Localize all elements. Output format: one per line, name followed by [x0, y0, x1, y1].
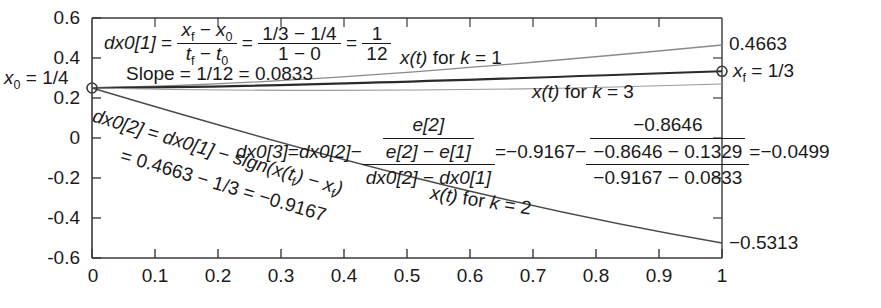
- x-tick-label-7: 0.7: [511, 266, 555, 285]
- eq3-lhs: dx0[3]: [236, 142, 288, 161]
- x-axis-ticks: [92, 249, 722, 258]
- eq3-equals-1: =: [288, 142, 299, 161]
- eq1-equals-3: =: [341, 32, 363, 53]
- figure-container: 0.6 0.4 0.2 0 -0.2 -0.4 -0.6 0 0.1 0.2 0…: [0, 0, 881, 308]
- x-tick-label-6: 0.6: [448, 266, 492, 285]
- x-tick-label-3: 0.3: [259, 266, 303, 285]
- eq1-fraction-1: xf − x0tf − t0: [177, 20, 236, 68]
- xf-label: xf = 1/3: [733, 61, 794, 84]
- y-tick-label-0: 0.6: [18, 8, 80, 27]
- eq1-equals-2: =: [237, 32, 259, 53]
- curve-k1-rest: for: [427, 47, 460, 68]
- x-tick-label-0: 0: [85, 266, 101, 285]
- eq3-inner-fraction-2: −0.8646 −0.8646 − 0.1329: [590, 112, 745, 164]
- eq3-big-den: dx0[2] − dx0[1]: [362, 164, 495, 191]
- x0-eq: = 1/4: [20, 67, 68, 88]
- eq3-numeric-fraction: −0.8646 −0.8646 − 0.1329 −0.9167 − 0.083…: [586, 112, 749, 191]
- eq3-numeric-den: −0.9167 − 0.0833: [586, 164, 749, 191]
- equation-dx03: dx0[3] = dx0[2] − e[2] e[2] − e[1] dx0[2…: [236, 112, 830, 191]
- eq1-f1n-rest: − x: [194, 19, 225, 40]
- eq3-result: −0.0499: [760, 142, 829, 161]
- curve-k3-rest: for: [559, 81, 592, 102]
- eq3-inner2-den: −0.8646 − 0.1329: [590, 138, 745, 165]
- eq1-frac2-den: 1 − 0: [258, 43, 340, 63]
- y-tick-label-5: -0.4: [14, 208, 80, 227]
- eq1-fraction-2: 1/3 − 1/41 − 0: [258, 24, 340, 63]
- eq1-f1d-rest: − t: [194, 43, 221, 64]
- eq3-big-num: e[2] e[2] − e[1]: [362, 112, 495, 164]
- x-tick-label-10: 1: [714, 266, 730, 285]
- endpoint-k1-label: 0.4663: [729, 34, 787, 53]
- xf-eq: = 1/3: [746, 60, 794, 81]
- endpoint-k2-label: −0.5313: [729, 233, 798, 252]
- eq3-inner-fraction-1: e[2] e[2] − e[1]: [383, 112, 474, 164]
- curve-k2-fn: x(t): [429, 182, 459, 207]
- eq3-value-1: −0.9167: [506, 142, 575, 161]
- y-tick-label-4: -0.2: [14, 168, 80, 187]
- eq1-fraction-3: 112: [362, 24, 391, 63]
- eq3-term1: dx0[2]: [299, 142, 351, 161]
- eq1-equals-1: =: [156, 32, 178, 53]
- curve-k1-val: = 1: [470, 47, 502, 68]
- curve-k3-fn: x(t): [532, 81, 559, 102]
- curve-k3-val: = 3: [602, 81, 634, 102]
- eq3-equals-2: =: [495, 142, 506, 161]
- slope-annotation: Slope = 1/12 = 0.0833: [126, 64, 313, 83]
- eq1-frac1-num: xf − x0: [177, 20, 236, 43]
- eq1-lhs: dx0[1]: [104, 32, 156, 53]
- eq3-big-fraction: e[2] e[2] − e[1] dx0[2] − dx0[1]: [362, 112, 495, 191]
- curve-label-k1: x(t) for k = 1: [400, 48, 502, 67]
- x0-label: x0 = 1/4: [4, 68, 69, 91]
- eq3-numeric-num: −0.8646 −0.8646 − 0.1329: [586, 112, 749, 164]
- curve-label-k3: x(t) for k = 3: [532, 82, 634, 101]
- eq3-equals-3: =: [749, 142, 760, 161]
- eq3-minus-1: −: [351, 142, 362, 161]
- y-tick-label-6: -0.6: [14, 248, 80, 267]
- equation-dx01: dx0[1] = xf − x0tf − t0 = 1/3 − 1/41 − 0…: [104, 20, 391, 68]
- eq1-frac2-num: 1/3 − 1/4: [258, 24, 340, 43]
- eq3-inner1-den: e[2] − e[1]: [383, 138, 474, 165]
- x-tick-label-8: 0.8: [574, 266, 618, 285]
- x-tick-label-5: 0.5: [385, 266, 429, 285]
- x0-var: x: [4, 67, 14, 88]
- eq1-f1n-var: x: [181, 19, 191, 40]
- x-tick-label-1: 0.1: [133, 266, 177, 285]
- x-tick-label-9: 0.9: [637, 266, 681, 285]
- curve-k3-k: k: [592, 81, 602, 102]
- curve-k1-k: k: [460, 47, 470, 68]
- xf-var: x: [733, 60, 743, 81]
- y-tick-label-3: 0: [18, 128, 80, 147]
- x-tick-label-2: 0.2: [196, 266, 240, 285]
- eq3-inner1-num: e[2]: [383, 112, 474, 138]
- eq3-minus-2: −: [575, 142, 586, 161]
- curve-k1-fn: x(t): [400, 47, 427, 68]
- y-tick-label-1: 0.4: [18, 48, 80, 67]
- eq1-frac3-den: 12: [362, 43, 391, 63]
- x-tick-label-4: 0.4: [322, 266, 366, 285]
- eq1-frac3-num: 1: [362, 24, 391, 43]
- eq1-f1n-sub2: 0: [226, 30, 233, 44]
- eq3-inner2-num: −0.8646: [590, 112, 745, 138]
